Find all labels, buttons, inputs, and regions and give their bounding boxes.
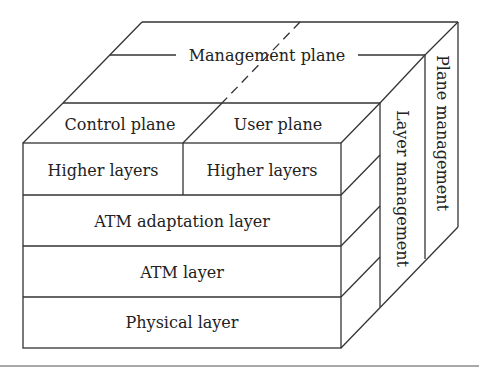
management-plane-face: Management plane: [63, 22, 458, 103]
layer-management-label: Layer management: [393, 110, 412, 268]
front-face-layers: Higher layers Higher layers ATM adaptati…: [23, 143, 341, 348]
plane-management-strip: Plane management: [425, 22, 458, 259]
control-plane-label: Control plane: [65, 115, 176, 134]
control-user-plane-face: Control plane User plane: [23, 103, 380, 143]
higher-layers-control-label: Higher layers: [48, 161, 159, 180]
plane-management-label: Plane management: [433, 55, 452, 211]
layer-management-strip: Layer management: [380, 55, 425, 307]
user-plane-label: User plane: [234, 115, 323, 134]
atm-cube-diagram: Management plane Control plane User plan…: [0, 0, 479, 370]
atm-layer-label: ATM layer: [139, 263, 224, 282]
atm-adaptation-layer-label: ATM adaptation layer: [93, 212, 270, 231]
management-plane-label: Management plane: [189, 46, 346, 65]
physical-layer-label: Physical layer: [126, 313, 239, 332]
higher-layers-user-label: Higher layers: [207, 161, 318, 180]
